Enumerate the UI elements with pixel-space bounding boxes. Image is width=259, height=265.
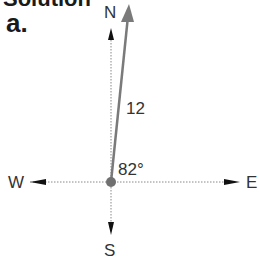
south-label: S <box>104 241 115 260</box>
south-arrowhead-icon <box>108 222 114 235</box>
angle-label: 82° <box>118 160 144 179</box>
vector-arrowhead-icon <box>121 4 134 22</box>
origin-point <box>106 177 116 187</box>
east-label: E <box>246 173 257 192</box>
magnitude-label: 12 <box>126 99 145 118</box>
west-arrowhead-icon <box>30 179 46 185</box>
east-arrowhead-icon <box>224 179 240 185</box>
compass-vector-diagram: N S W E 12 82° <box>0 0 259 265</box>
north-label: N <box>104 3 116 22</box>
north-arrowhead-icon <box>108 28 114 40</box>
west-label: W <box>8 173 24 192</box>
